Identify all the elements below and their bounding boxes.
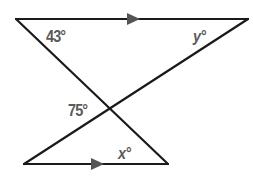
angle-label-75: 75° — [68, 102, 87, 119]
transversal-top-left-to-bottom-right — [16, 19, 168, 164]
parallel-arrow-icon-bottom — [91, 158, 104, 170]
angle-label-y: y° — [193, 28, 205, 45]
angle-label-x: x° — [118, 145, 130, 162]
angle-label-43: 43° — [46, 28, 65, 45]
parallel-arrow-icon-top — [127, 13, 140, 25]
